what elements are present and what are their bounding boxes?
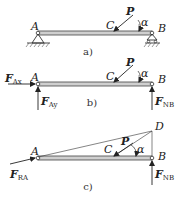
svg-text:C: C bbox=[106, 70, 115, 83]
svg-text:a): a) bbox=[83, 46, 93, 57]
svg-text:c): c) bbox=[83, 181, 93, 192]
force-ax-label: FAx bbox=[4, 72, 22, 86]
svg-text:A: A bbox=[30, 145, 39, 158]
point-label-c: C bbox=[106, 19, 115, 32]
svg-text:A: A bbox=[30, 71, 39, 84]
svg-text:B: B bbox=[157, 73, 166, 86]
point-label-c: C bbox=[104, 143, 113, 156]
angle-arc bbox=[131, 145, 136, 156]
load-label: P bbox=[125, 5, 135, 18]
caption-a: a) bbox=[83, 46, 93, 57]
caption-c: c) bbox=[83, 181, 93, 192]
beam bbox=[38, 82, 152, 86]
angle-label: α bbox=[141, 16, 149, 29]
load-label: P bbox=[120, 135, 130, 148]
point-label-a: A bbox=[30, 71, 39, 84]
svg-text:α: α bbox=[141, 67, 149, 80]
svg-text:b): b) bbox=[87, 97, 97, 108]
subfigure-b: A B C P α FAx FAy FNB b) bbox=[4, 56, 174, 110]
svg-text:A: A bbox=[30, 20, 39, 33]
svg-text:α: α bbox=[141, 16, 149, 29]
svg-text:P: P bbox=[125, 56, 135, 69]
angle-label: α bbox=[137, 143, 145, 156]
svg-text:C: C bbox=[106, 19, 115, 32]
beam-diagram: A B C P α a) A B C P α FAx FAy FNB b) bbox=[0, 0, 177, 208]
svg-text:α: α bbox=[137, 143, 145, 156]
load-label: P bbox=[125, 56, 135, 69]
subfigure-c: A B C D P α FRA FNB c) bbox=[9, 120, 174, 192]
svg-text:D: D bbox=[154, 120, 164, 133]
line-ad bbox=[38, 131, 152, 157]
point-label-a: A bbox=[30, 20, 39, 33]
force-nb-label: FNB bbox=[154, 168, 174, 182]
svg-text:C: C bbox=[104, 143, 113, 156]
svg-text:B: B bbox=[157, 150, 166, 163]
point-label-b: B bbox=[157, 22, 166, 35]
beam bbox=[38, 156, 152, 160]
point-label-b: B bbox=[157, 150, 166, 163]
point-label-a: A bbox=[30, 145, 39, 158]
subfigure-a: A B C P α a) bbox=[26, 5, 166, 57]
point-label-c: C bbox=[106, 70, 115, 83]
force-ra-arrow bbox=[10, 158, 35, 164]
svg-text:P: P bbox=[120, 135, 130, 148]
angle-label: α bbox=[141, 67, 149, 80]
svg-text:B: B bbox=[157, 22, 166, 35]
caption-b: b) bbox=[87, 97, 97, 108]
force-nb-label: FNB bbox=[154, 95, 174, 109]
svg-text:P: P bbox=[125, 5, 135, 18]
beam bbox=[38, 31, 152, 35]
force-ay-label: FAy bbox=[40, 95, 58, 109]
point-label-b: B bbox=[157, 73, 166, 86]
force-ra-label: FRA bbox=[9, 168, 29, 182]
point-label-d: D bbox=[154, 120, 164, 133]
